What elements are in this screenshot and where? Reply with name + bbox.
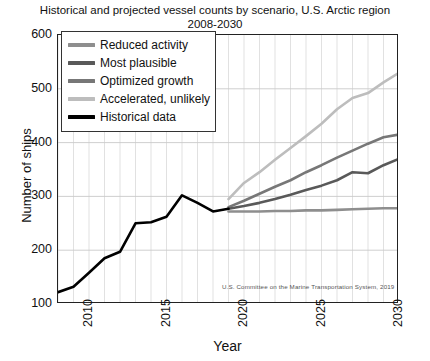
- x-tick-label-2015: 2015: [159, 290, 173, 336]
- chart-legend: Reduced activityMost plausibleOptimized …: [61, 31, 216, 132]
- chart-title: Historical and projected vessel counts b…: [0, 3, 430, 31]
- legend-line-swatch-icon: [68, 61, 95, 64]
- legend-item-0[interactable]: Reduced activity: [68, 36, 210, 54]
- legend-item-label: Historical data: [100, 111, 176, 124]
- source-annotation: U.S. Committee on the Marine Transportat…: [222, 283, 394, 290]
- legend-line-swatch-icon: [68, 115, 95, 118]
- y-tick-label-100: 100: [4, 297, 52, 309]
- legend-item-label: Optimized growth: [100, 75, 193, 88]
- legend-line-swatch-icon: [68, 79, 95, 82]
- y-tick-label-600: 600: [4, 28, 52, 40]
- y-tick-label-500: 500: [4, 82, 52, 94]
- y-axis-label: Number of ships: [19, 106, 34, 246]
- legend-item-3[interactable]: Accelerated, unlikely: [68, 90, 210, 108]
- legend-line-swatch-icon: [68, 43, 95, 46]
- legend-item-label: Reduced activity: [100, 39, 188, 52]
- x-tick-label-2030: 2030: [391, 290, 405, 336]
- legend-item-4[interactable]: Historical data: [68, 108, 210, 126]
- legend-item-2[interactable]: Optimized growth: [68, 72, 210, 90]
- legend-item-label: Accelerated, unlikely: [100, 93, 210, 106]
- x-tick-label-2025: 2025: [314, 290, 328, 336]
- chart-figure: Historical and projected vessel counts b…: [0, 0, 430, 361]
- legend-item-label: Most plausible: [100, 57, 177, 70]
- x-axis-label: Year: [57, 338, 398, 354]
- legend-line-swatch-icon: [68, 97, 95, 100]
- legend-item-1[interactable]: Most plausible: [68, 54, 210, 72]
- x-tick-label-2020: 2020: [236, 290, 250, 336]
- x-tick-label-2010: 2010: [81, 290, 95, 336]
